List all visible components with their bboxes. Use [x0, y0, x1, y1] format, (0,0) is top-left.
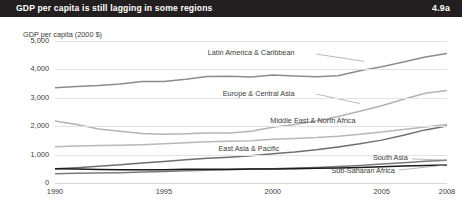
y-tick-label-2000: 2,000: [3, 121, 49, 130]
gridline-4000: [55, 69, 447, 70]
y-tick-label-5000: 5,000: [3, 36, 49, 45]
leader-south-asia: [412, 159, 447, 160]
x-tick-label-2008: 2008: [439, 187, 455, 196]
series-label-5: Sub-Saharan Africa: [331, 166, 394, 175]
y-tick-label-4000: 4,000: [3, 64, 49, 73]
gridline-0: [55, 183, 447, 184]
gridline-5000: [55, 41, 447, 42]
figure-gdp-per-capita: GDP per capita is still lagging in some …: [0, 0, 462, 202]
series-label-2: Middle East & North Africa: [270, 116, 355, 125]
x-tick-label-1990: 1990: [47, 187, 63, 196]
figure-number: 4.9a: [432, 3, 450, 13]
y-tick-label-3000: 3,000: [3, 93, 49, 102]
x-tick-label-1995: 1995: [156, 187, 172, 196]
series-label-1: Europe & Central Asia: [223, 89, 295, 98]
header-bar: GDP per capita is still lagging in some …: [0, 0, 462, 17]
series-line-2: [55, 125, 447, 147]
leader-latin-america: [316, 54, 364, 61]
series-line-0: [55, 54, 447, 88]
x-tick-label-2005: 2005: [373, 187, 389, 196]
x-tick-label-2000: 2000: [265, 187, 281, 196]
y-tick-label-0: 0: [3, 178, 49, 187]
page-title: GDP per capita is still lagging in some …: [16, 3, 212, 13]
series-label-0: Latin America & Caribbean: [208, 48, 295, 57]
series-label-3: East Asia & Pacific: [218, 144, 279, 153]
series-label-4: South Asia: [373, 153, 408, 162]
gridline-3000: [55, 98, 447, 99]
y-tick-label-1000: 1,000: [3, 150, 49, 159]
gridline-2000: [55, 126, 447, 127]
